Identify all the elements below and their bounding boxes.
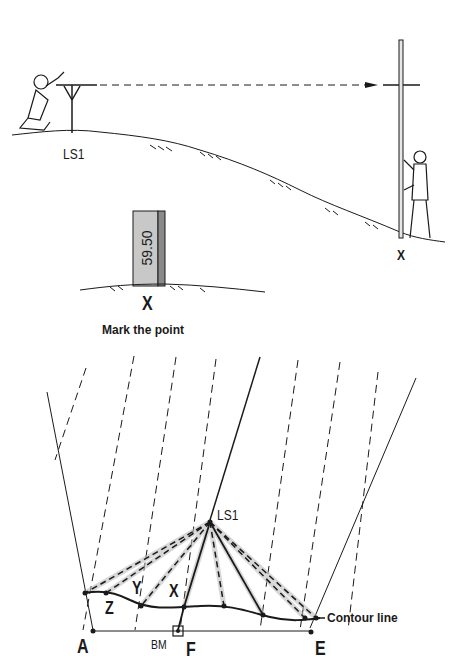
point-label-x: X xyxy=(169,581,179,602)
marker-caption: Mark the point xyxy=(102,323,184,337)
staff-point-label: X xyxy=(397,246,405,263)
corner-a-label: A xyxy=(77,635,89,658)
peg-value: 59.50 xyxy=(137,228,157,268)
surveyor-kneeling xyxy=(20,72,64,130)
sight-rays xyxy=(85,522,316,630)
staff-holder xyxy=(404,151,430,238)
corner-e-label: E xyxy=(315,637,326,660)
station-line xyxy=(210,357,260,520)
benchmark-label: BM xyxy=(151,637,167,652)
plan-station-label: LS1 xyxy=(217,506,238,523)
levelling-staff xyxy=(399,40,403,238)
point-label-z: Z xyxy=(105,598,114,619)
point-f-label: F xyxy=(186,638,196,661)
contour-line-label: Contour line xyxy=(327,611,398,625)
station-label-top: LS1 xyxy=(63,145,84,162)
sighting-board xyxy=(56,85,97,133)
sight-line xyxy=(100,82,420,88)
point-label-y: Y xyxy=(132,578,142,599)
marker-point-label: X xyxy=(142,292,153,315)
levelling-diagram xyxy=(0,0,464,668)
direction-lines xyxy=(55,356,378,630)
peg-ground xyxy=(80,284,265,292)
